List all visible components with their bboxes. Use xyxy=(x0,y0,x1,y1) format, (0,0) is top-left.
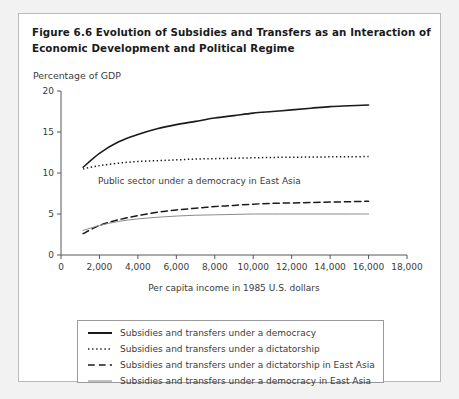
x-tick-label: 0 xyxy=(58,262,64,272)
x-tick-label: 2,000 xyxy=(87,262,113,272)
x-tick-label: 10,000 xyxy=(237,262,269,272)
series-line-0 xyxy=(83,105,368,167)
x-tick-label: 12,000 xyxy=(276,262,308,272)
chart-annotations: Public sector under a democracy in East … xyxy=(98,176,301,186)
legend-label: Subsidies and transfers under a democrac… xyxy=(120,376,371,386)
legend-label: Subsidies and transfers under a democrac… xyxy=(120,328,316,338)
legend-item[interactable]: Subsidies and transfers under a dictator… xyxy=(78,341,383,356)
x-tick-label: 8,000 xyxy=(202,262,228,272)
chart-legend: Subsidies and transfers under a democrac… xyxy=(77,320,384,383)
y-tick-label: 20 xyxy=(43,86,55,96)
chart-series-group xyxy=(83,105,368,234)
y-axis-ticks: 05101520 xyxy=(43,86,61,260)
plot-annotation: Public sector under a democracy in East … xyxy=(98,176,301,186)
x-tick-label: 6,000 xyxy=(163,262,189,272)
x-tick-label: 18,000 xyxy=(391,262,423,272)
legend-label: Subsidies and transfers under a dictator… xyxy=(120,360,375,370)
x-axis-ticks: 02,0004,0006,0008,00010,00012,00014,0001… xyxy=(58,255,423,272)
x-tick-label: 16,000 xyxy=(353,262,385,272)
legend-swatch-icon xyxy=(87,376,113,386)
series-line-3 xyxy=(83,214,368,230)
legend-item[interactable]: Subsidies and transfers under a dictator… xyxy=(78,357,383,372)
figure-panel: Figure 6.6 Evolution of Subsidies and Tr… xyxy=(18,13,441,382)
legend-swatch-icon xyxy=(87,328,113,338)
x-tick-label: 14,000 xyxy=(314,262,346,272)
legend-item[interactable]: Subsidies and transfers under a democrac… xyxy=(78,325,383,340)
y-tick-label: 15 xyxy=(43,127,54,137)
y-tick-label: 0 xyxy=(48,250,54,260)
series-line-2 xyxy=(83,201,368,233)
legend-swatch-icon xyxy=(87,360,113,370)
legend-label: Subsidies and transfers under a dictator… xyxy=(120,344,320,354)
legend-swatch-icon xyxy=(87,344,113,354)
series-line-1 xyxy=(83,157,368,169)
x-tick-label: 4,000 xyxy=(125,262,151,272)
y-tick-label: 5 xyxy=(48,209,54,219)
legend-item[interactable]: Subsidies and transfers under a democrac… xyxy=(78,373,383,388)
x-axis-title: Per capita income in 1985 U.S. dollars xyxy=(148,283,320,293)
y-tick-label: 10 xyxy=(43,168,55,178)
